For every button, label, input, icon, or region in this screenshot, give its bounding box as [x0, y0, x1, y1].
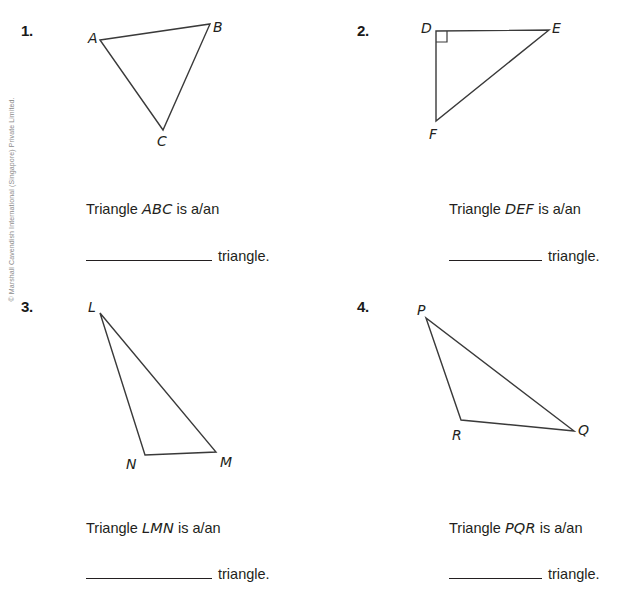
answer-blank-4[interactable] — [449, 564, 542, 579]
prompt-letters-4: PQR — [505, 520, 536, 536]
triangle-pqr-svg — [0, 0, 641, 604]
vertex-label-q: Q — [578, 423, 589, 437]
prompt-text-4: Triangle PQR is a/an — [449, 521, 582, 537]
prompt-suffix-4: is a/an — [536, 520, 583, 536]
answer-line-4: triangle. — [449, 564, 600, 583]
worksheet-page: © Marshall Cavendish International (Sing… — [0, 0, 641, 604]
answer-tail-4: triangle. — [548, 566, 600, 582]
vertex-label-p: P — [417, 303, 425, 317]
figure-triangle-pqr — [0, 0, 641, 604]
prompt-prefix-4: Triangle — [449, 520, 505, 536]
vertex-label-r: R — [452, 428, 462, 442]
triangle-pqr-outline — [426, 318, 574, 431]
